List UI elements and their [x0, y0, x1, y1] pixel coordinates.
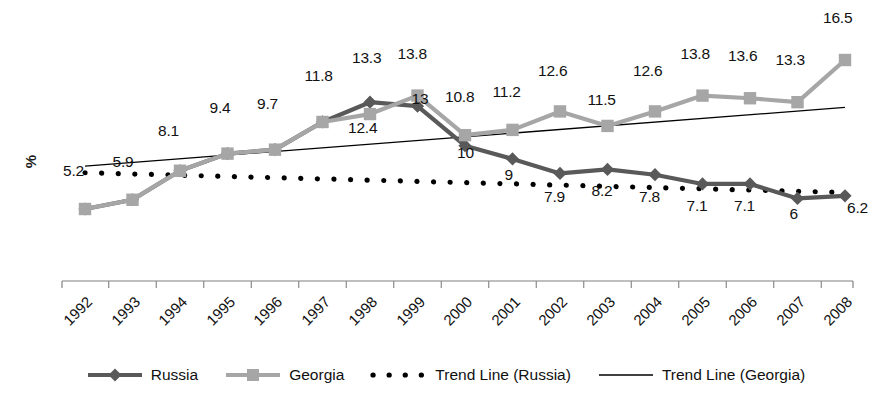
- marker-point: [174, 165, 186, 177]
- marker-point: [791, 192, 804, 205]
- marker-point: [839, 54, 851, 66]
- russia-value-label: 8.2: [592, 182, 613, 200]
- russia-value-label: 7.9: [544, 188, 565, 206]
- line-chart: % 19921993199419951996199719981999200020…: [0, 0, 891, 412]
- marker-point: [601, 163, 614, 176]
- marker-point: [79, 203, 91, 215]
- marker-point: [554, 105, 566, 117]
- georgia-value-label: 13.8: [681, 45, 710, 63]
- georgia-value-label: 13.3: [776, 51, 805, 69]
- russia-value-label: 7.1: [687, 197, 708, 215]
- marker-point: [696, 89, 708, 101]
- russia-value-label: 9.7: [257, 95, 278, 113]
- georgia-value-label: 16.5: [823, 9, 852, 27]
- russia-value-label: 13: [412, 90, 429, 108]
- marker-point: [269, 143, 281, 155]
- russia-value-label: 9: [505, 166, 513, 184]
- marker-point: [506, 124, 518, 136]
- georgia-value-label: 13.6: [728, 47, 757, 65]
- marker-point: [363, 96, 376, 109]
- legend-item-russia[interactable]: Russia: [86, 366, 198, 384]
- legend-label: Trend Line (Russia): [435, 366, 571, 384]
- legend-swatch-dotted-black: [370, 367, 428, 383]
- russia-value-label: 6: [790, 205, 798, 223]
- marker-point: [648, 168, 661, 181]
- legend-item-trend-line-georgia[interactable]: Trend Line (Georgia): [597, 366, 805, 384]
- russia-value-label: 7.1: [734, 197, 755, 215]
- legend-swatch-line-diamond-dark: [86, 367, 144, 383]
- georgia-value-label: 12.6: [538, 62, 567, 80]
- russia-value-label: 6.2: [847, 199, 868, 217]
- russia-value-label: 9.4: [210, 99, 231, 117]
- russia-value-label: 8.1: [158, 122, 179, 140]
- marker-point: [459, 129, 471, 141]
- legend-swatch-solid-thin-black: [597, 367, 655, 383]
- georgia-value-label: 13.8: [398, 45, 427, 63]
- chart-legend: RussiaGeorgiaTrend Line (Russia)Trend Li…: [0, 358, 891, 392]
- georgia-value-label: 12.6: [633, 62, 662, 80]
- legend-label: Russia: [151, 366, 198, 384]
- legend-label: Trend Line (Georgia): [662, 366, 805, 384]
- marker-point: [506, 152, 519, 165]
- legend-label: Georgia: [289, 366, 344, 384]
- legend-item-georgia[interactable]: Georgia: [224, 366, 344, 384]
- marker-point: [221, 147, 233, 159]
- russia-value-label: 7.8: [639, 188, 660, 206]
- marker-point: [791, 96, 803, 108]
- russia-value-label: 11.8: [305, 67, 333, 85]
- marker-point: [744, 92, 756, 104]
- legend-swatch-line-square-light: [224, 367, 282, 383]
- russia-value-label: 5.9: [113, 153, 134, 171]
- georgia-value-label: 11.5: [588, 91, 616, 109]
- russia-value-label: 5.2: [63, 162, 84, 180]
- marker-point: [553, 167, 566, 180]
- x-axis: [62, 281, 853, 288]
- marker-point: [126, 194, 138, 206]
- legend-item-trend-line-russia[interactable]: Trend Line (Russia): [370, 366, 571, 384]
- marker-point: [601, 120, 613, 132]
- georgia-value-label: 11.2: [493, 83, 521, 101]
- marker-point: [649, 105, 661, 117]
- georgia-value-label: 12.4: [348, 119, 377, 137]
- russia-value-label: 13.3: [352, 49, 381, 67]
- marker-point: [743, 177, 756, 190]
- georgia-value-label: 10.8: [445, 88, 474, 106]
- russia-value-label: 10: [457, 144, 474, 162]
- series-georgia: [79, 54, 851, 215]
- marker-point: [316, 116, 328, 128]
